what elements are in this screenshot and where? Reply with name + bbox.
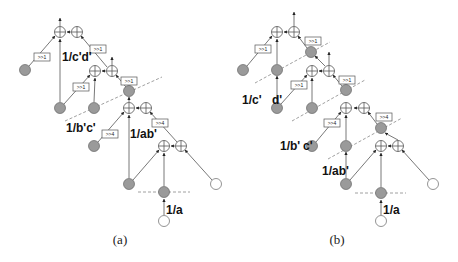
shift-box: >>1 xyxy=(121,77,137,85)
gray-node xyxy=(89,103,100,114)
input-node xyxy=(376,216,387,227)
gray-node xyxy=(55,103,66,114)
svg-text:>>1: >>1 xyxy=(295,82,304,88)
svg-text:>>1: >>1 xyxy=(38,54,47,60)
gray-node xyxy=(20,65,31,76)
adder-icon xyxy=(324,66,335,77)
input-node xyxy=(428,179,439,190)
gray-node xyxy=(124,86,135,97)
adder-icon xyxy=(393,141,404,152)
svg-text:>>1: >>1 xyxy=(343,77,352,83)
coef-label: 1/a xyxy=(383,203,400,217)
svg-text:>>1: >>1 xyxy=(94,46,103,52)
gray-node xyxy=(272,65,283,76)
input-node xyxy=(211,179,222,190)
shift-box: >>4 xyxy=(324,119,340,127)
shift-box: >>4 xyxy=(376,113,392,121)
coef-label: 1/ab' xyxy=(322,164,349,178)
shift-box: >>4 xyxy=(102,130,118,138)
shift-box: >>1 xyxy=(90,45,106,53)
svg-text:>>1: >>1 xyxy=(259,46,268,52)
gray-node xyxy=(89,141,100,152)
gray-node xyxy=(159,187,170,198)
shift-box: >>4 xyxy=(152,119,168,127)
gray-node xyxy=(307,103,318,114)
coef-label: 1/c'd' xyxy=(62,50,92,64)
svg-text:>>4: >>4 xyxy=(156,120,165,126)
shift-box: >>1 xyxy=(73,83,89,91)
panel-a: >>1 >>1 >>1 >>1 >>4 >>4 1/c'd' 1/b'c' 1/… xyxy=(20,18,222,247)
adder-icon xyxy=(376,141,387,152)
adder-icon xyxy=(176,141,187,152)
coef-label: 1/a xyxy=(166,203,183,217)
diagram-canvas: >>1 >>1 >>1 >>1 >>4 >>4 1/c'd' 1/b'c' 1/… xyxy=(0,0,458,262)
panel-b: >>1 >>1 >>1 >>1 >>4 >>4 1/c' d' 1/b' c' … xyxy=(238,12,439,247)
adder-icon xyxy=(307,66,318,77)
svg-text:>>4: >>4 xyxy=(328,120,337,126)
shift-box: >>1 xyxy=(255,45,271,53)
adder-icon xyxy=(55,27,66,38)
gray-node xyxy=(306,47,317,58)
adder-icon xyxy=(272,27,283,38)
adder-icon xyxy=(72,27,83,38)
gray-node xyxy=(124,179,135,190)
coef-label: c' xyxy=(303,139,313,153)
input-node xyxy=(159,216,170,227)
adder-icon xyxy=(141,103,152,114)
coef-label: 1/ab' xyxy=(130,127,157,141)
gray-node xyxy=(341,141,352,152)
shift-box: >>1 xyxy=(339,76,355,84)
adder-icon xyxy=(124,103,135,114)
adder-icon xyxy=(90,66,101,77)
adder-icon xyxy=(341,103,352,114)
gray-node xyxy=(341,179,352,190)
svg-text:>>1: >>1 xyxy=(125,78,134,84)
coef-label: 1/b' xyxy=(280,139,300,153)
adder-icon xyxy=(289,27,300,38)
shift-box: >>1 xyxy=(305,37,321,45)
adder-icon xyxy=(107,66,118,77)
adder-icon xyxy=(359,103,370,114)
caption-a: (a) xyxy=(113,232,127,247)
svg-text:>>1: >>1 xyxy=(309,38,318,44)
caption-b: (b) xyxy=(329,232,344,247)
svg-text:>>4: >>4 xyxy=(106,131,115,137)
gray-node xyxy=(341,85,352,96)
shift-box: >>1 xyxy=(291,81,307,89)
svg-text:>>1: >>1 xyxy=(77,84,86,90)
gray-node xyxy=(238,65,249,76)
coef-label: 1/c' xyxy=(242,93,262,107)
adder-icon xyxy=(159,141,170,152)
gray-node xyxy=(376,123,387,134)
coef-label: d' xyxy=(272,93,282,107)
svg-text:>>4: >>4 xyxy=(380,114,389,120)
gray-node xyxy=(376,188,387,199)
coef-label: 1/b'c' xyxy=(66,121,96,135)
shift-box: >>1 xyxy=(34,53,50,61)
